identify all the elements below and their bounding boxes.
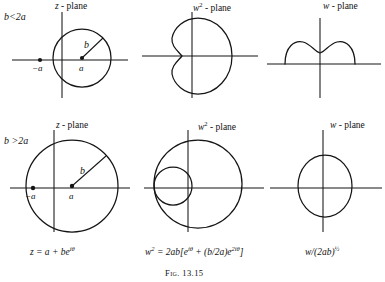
point-label-minus-a-top: −a	[32, 64, 43, 73]
plane-suffix: - plane	[59, 1, 88, 11]
point-minus-a	[31, 186, 35, 190]
plane-label-w2-bottom: w2 - plane	[198, 121, 236, 133]
plane-label-w2-top: w2 - plane	[193, 2, 231, 14]
equation-w2-rest2: + (b/2a)e	[193, 247, 232, 257]
plane-suffix: - plane	[336, 120, 365, 130]
plane-label-w-top: w - plane	[323, 2, 358, 12]
equation-w-exponent: ½	[335, 245, 340, 252]
equation-w2-exp2: 2iθ	[232, 245, 240, 252]
plane-suffix: - plane	[208, 122, 237, 132]
plane-suffix: - plane	[329, 1, 358, 11]
center-point-a	[80, 56, 84, 60]
equation-w: w/(2ab)½	[305, 248, 339, 258]
equation-w2: w2 = 2ab[eiθ + (b/2a)e2iθ]	[145, 248, 243, 258]
w-oval-curve	[298, 155, 352, 217]
equation-w2-rest1: = 2ab[e	[155, 247, 188, 257]
equation-z-body: z = a + be	[30, 247, 70, 257]
equation-w-body: w/(2ab)	[305, 247, 335, 257]
point-label-minus-a-bottom: −a	[25, 192, 36, 201]
center-point-a	[70, 184, 74, 188]
radius-label-b-bottom: b	[80, 166, 85, 176]
limacon-outer-loop	[154, 140, 242, 228]
figure-caption: Fig. 13.15	[165, 268, 203, 278]
plane-label-w-bottom: w - plane	[330, 121, 365, 131]
point-label-a-top: a	[79, 64, 84, 73]
equation-z: z = a + beiθ	[30, 248, 75, 258]
limacon-inner-loop	[154, 167, 192, 205]
panel-w-plane-bottom: w - plane	[268, 116, 384, 232]
panel-z-plane-bottom: z - plane b −a a	[8, 116, 133, 232]
equation-z-exponent: iθ	[70, 245, 75, 252]
plane-suffix: - plane	[60, 120, 89, 130]
plane-label-z-bottom: z - plane	[56, 121, 88, 131]
panel-z-plane-top: z - plane b −a a	[10, 6, 130, 98]
point-label-a-bottom: a	[69, 192, 74, 201]
panel-w2-plane-top: w2 - plane	[140, 6, 260, 98]
figure-13-15: b<2a z - plane b −a a w2 - plane	[0, 0, 385, 282]
plane-suffix: - plane	[203, 3, 232, 13]
radius-line	[72, 156, 106, 186]
panel-w2-plane-bottom: w2 - plane	[142, 116, 267, 232]
plane-label-z-top: z - plane	[55, 2, 87, 12]
point-minus-a	[38, 58, 42, 62]
radius-label-b-top: b	[84, 40, 89, 50]
panel-w-plane-top: w - plane	[265, 6, 383, 98]
equation-w2-rest3: ]	[240, 247, 244, 257]
